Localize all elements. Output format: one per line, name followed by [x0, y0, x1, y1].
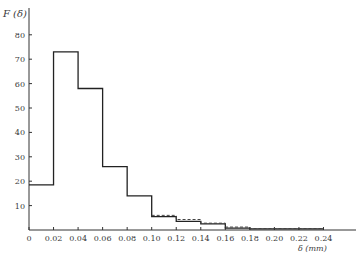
y-tick-label: 20 — [15, 177, 25, 186]
x-tick-label: 0.22 — [290, 234, 308, 243]
x-tick-label: 0.18 — [241, 234, 259, 243]
x-tick-label: 0.06 — [94, 234, 112, 243]
x-tick-label: 0.14 — [192, 234, 210, 243]
y-tick-label: 10 — [15, 202, 25, 211]
y-tick-label: 40 — [15, 128, 25, 137]
y-axis-label: F (δ) — [2, 8, 27, 19]
y-tick-label: 70 — [15, 55, 25, 64]
x-tick-label: 0.16 — [216, 234, 234, 243]
x-tick-label: 0.10 — [143, 234, 161, 243]
histogram-chart: 102030405060708000.020.040.060.080.100.1… — [0, 0, 359, 257]
x-tick-label: 0.20 — [265, 234, 283, 243]
histogram-steps — [29, 52, 323, 229]
axis-ticks: 102030405060708000.020.040.060.080.100.1… — [15, 31, 333, 243]
y-tick-label: 50 — [15, 104, 25, 113]
x-tick-label: 0.02 — [45, 234, 63, 243]
y-tick-label: 60 — [15, 80, 25, 89]
histogram-step-line — [29, 52, 323, 229]
x-tick-label: 0.12 — [167, 234, 185, 243]
axes — [29, 8, 356, 230]
y-tick-label: 30 — [15, 153, 25, 162]
x-tick-label: 0.24 — [315, 234, 333, 243]
x-tick-label: 0.08 — [118, 234, 136, 243]
x-tick-label: 0.04 — [69, 234, 87, 243]
x-tick-label: 0 — [26, 234, 31, 243]
x-axis-label: δ (mm) — [298, 244, 327, 253]
y-tick-label: 80 — [15, 31, 25, 40]
